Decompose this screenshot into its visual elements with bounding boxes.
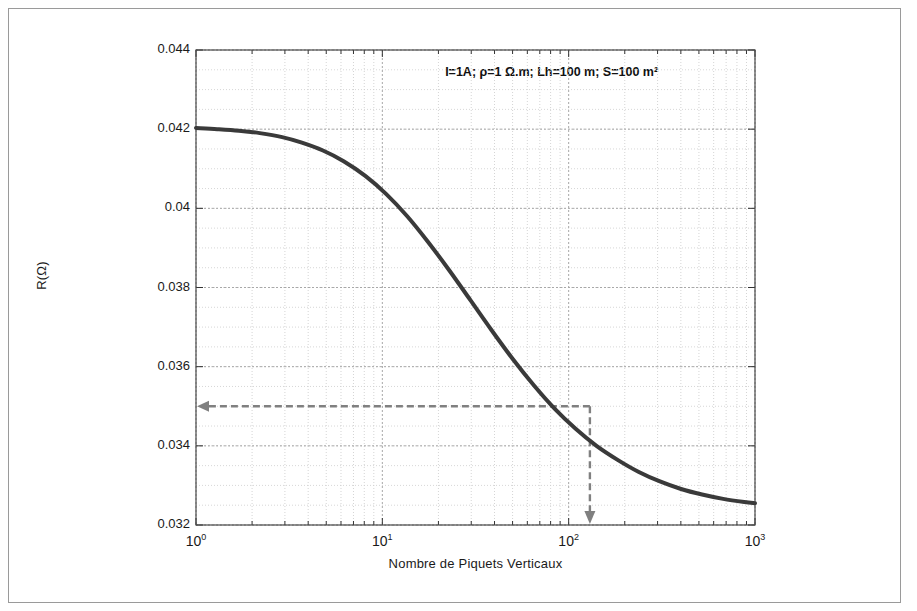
data-curve (196, 128, 755, 503)
chart-figure: R(Ω) Nombre de Piquets Verticaux 0.0320.… (0, 0, 917, 611)
plot-area (0, 0, 917, 611)
minor-gridlines (196, 50, 755, 525)
